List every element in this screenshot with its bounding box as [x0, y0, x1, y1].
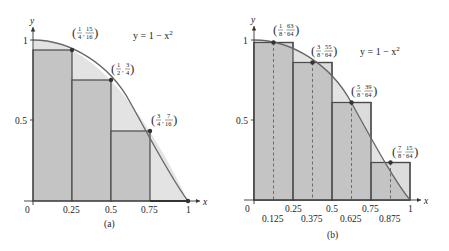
x-tick-0.5: 0.5: [326, 204, 338, 214]
svg-text:1: 1: [78, 25, 81, 32]
svg-text:): ): [130, 61, 134, 76]
y-tick-1: 1: [243, 36, 248, 46]
svg-text:(: (: [72, 25, 76, 40]
svg-text:8: 8: [398, 152, 401, 159]
point-label-4: ( 7 8 , 15 64 ): [392, 144, 418, 159]
svg-text:63: 63: [287, 22, 294, 29]
svg-text:64: 64: [365, 91, 372, 98]
svg-text:64: 64: [406, 152, 413, 159]
y-tick-0.5: 0.5: [15, 116, 27, 126]
x-axis-label: x: [423, 196, 429, 206]
caption-b: (b): [327, 230, 338, 241]
point-label-3: ( 3 4 , 7 16 ): [151, 112, 177, 127]
svg-text:(: (: [151, 112, 155, 127]
x-tick-0: 0: [245, 204, 250, 214]
x-tick-0.75: 0.75: [141, 205, 158, 215]
equation-label: y = 1 − x2: [360, 45, 400, 57]
svg-text:): ): [414, 144, 418, 159]
svg-text:(: (: [311, 43, 315, 58]
y-tick-0.5: 0.5: [236, 116, 248, 126]
svg-text:1: 1: [279, 22, 282, 29]
svg-text:): ): [373, 83, 377, 98]
svg-text:4: 4: [78, 33, 82, 40]
rectangle-2: [72, 80, 111, 201]
svg-text:(: (: [111, 61, 115, 76]
svg-text:64: 64: [287, 30, 294, 37]
caption-a: (a): [104, 219, 115, 230]
panel-b: y x 1 0.5 0 0.25 0.5 0.75 1 0.125 0.375 …: [236, 15, 429, 241]
x-axis-label: x: [202, 197, 208, 207]
rectangle-3: [111, 131, 150, 201]
y-axis-label: y: [29, 16, 35, 26]
x-midtick-0.875: 0.875: [379, 214, 401, 224]
svg-text:15: 15: [86, 25, 93, 32]
svg-text:1: 1: [117, 61, 120, 68]
svg-text:15: 15: [406, 144, 413, 151]
svg-text:2: 2: [117, 69, 120, 76]
x-tick-1: 1: [408, 204, 413, 214]
svg-text:(: (: [392, 144, 396, 159]
y-axis-label: y: [250, 15, 256, 25]
svg-text:,: ,: [284, 27, 286, 34]
svg-text:(: (: [351, 83, 355, 98]
x-midtick-0.375: 0.375: [301, 214, 323, 224]
svg-text:,: ,: [403, 149, 405, 156]
svg-text:): ): [94, 25, 98, 40]
svg-text:7: 7: [398, 144, 402, 151]
svg-text:): ): [173, 112, 177, 127]
svg-text:8: 8: [279, 30, 282, 37]
svg-text:): ): [295, 22, 299, 37]
svg-text:): ): [333, 43, 337, 58]
point-label-1: ( 1 8 , 63 64 ): [273, 22, 299, 37]
svg-text:3: 3: [157, 112, 160, 119]
svg-text:16: 16: [165, 120, 172, 127]
equation-label: y = 1 − x2: [133, 29, 173, 41]
svg-text:8: 8: [357, 91, 360, 98]
svg-text:(: (: [273, 22, 277, 37]
x-midtick-0.625: 0.625: [340, 214, 362, 224]
panel-a: y x 1 0.5 0 0.25 0.5 0.75 1 y = 1 − x2 (…: [15, 16, 208, 230]
svg-text:4: 4: [157, 120, 161, 127]
x-tick-0.5: 0.5: [105, 205, 117, 215]
svg-text:3: 3: [126, 61, 129, 68]
svg-text:39: 39: [365, 83, 372, 90]
point-label-3: ( 5 8 , 39 64 ): [351, 83, 377, 98]
svg-text:8: 8: [317, 51, 320, 58]
svg-text:3: 3: [317, 43, 320, 50]
x-tick-0.25: 0.25: [285, 204, 302, 214]
svg-text:16: 16: [86, 33, 93, 40]
x-tick-0.25: 0.25: [63, 205, 80, 215]
point-label-1: ( 1 4 , 15 16 ): [72, 25, 98, 40]
point-label-2: ( 1 2 , 3 4 ): [111, 61, 134, 76]
rectangle-1: [33, 50, 72, 201]
svg-text:55: 55: [325, 43, 332, 50]
svg-text:64: 64: [325, 51, 332, 58]
riemann-sum-figure: y x 1 0.5 0 0.25 0.5 0.75 1 y = 1 − x2 (…: [0, 0, 449, 251]
svg-text:,: ,: [162, 117, 164, 124]
x-midtick-0.125: 0.125: [262, 214, 284, 224]
svg-text:,: ,: [322, 48, 324, 55]
y-tick-1: 1: [23, 36, 28, 46]
svg-text:,: ,: [362, 88, 364, 95]
point-label-2: ( 3 8 , 55 64 ): [311, 43, 337, 58]
x-tick-0.75: 0.75: [362, 204, 379, 214]
svg-text:5: 5: [357, 83, 360, 90]
svg-text:,: ,: [83, 30, 85, 37]
x-tick-1: 1: [186, 205, 191, 215]
x-tick-0: 0: [25, 205, 30, 215]
svg-text:,: ,: [122, 66, 124, 73]
svg-text:7: 7: [167, 112, 171, 119]
